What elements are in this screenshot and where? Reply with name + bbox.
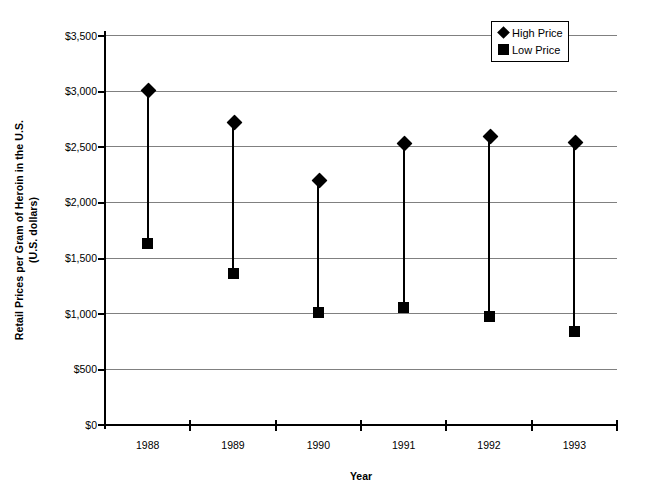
gridline-2000 bbox=[105, 202, 617, 203]
price-range-stem-1992 bbox=[488, 135, 490, 317]
x-axis-tick-1988 bbox=[189, 420, 191, 431]
y-tick-label-1000: $1,000 bbox=[45, 308, 97, 320]
x-axis-tick-1992 bbox=[531, 420, 533, 431]
low-price-marker-1989[interactable] bbox=[228, 268, 239, 279]
high-price-marker-1988[interactable] bbox=[141, 83, 157, 99]
high-price-marker-1992[interactable] bbox=[482, 128, 498, 144]
plot-area: 198819891990199119921993 bbox=[105, 35, 617, 425]
low-price-marker-1990[interactable] bbox=[313, 307, 324, 318]
y-tick-label-0: $0 bbox=[45, 419, 97, 431]
x-axis-tick-1989 bbox=[275, 420, 277, 431]
low-price-marker-1991[interactable] bbox=[398, 302, 409, 313]
y-axis-tick-500 bbox=[98, 369, 106, 371]
x-tick-label-1993: 1993 bbox=[539, 439, 609, 451]
gridline-2500 bbox=[105, 146, 617, 147]
x-axis-tick-1990 bbox=[360, 420, 362, 431]
y-tick-label-1500: $1,500 bbox=[45, 252, 97, 264]
y-axis-tick-0 bbox=[98, 424, 106, 426]
diamond-marker-icon bbox=[496, 28, 510, 37]
x-tick-label-1992: 1992 bbox=[454, 439, 524, 451]
x-axis-tick-1993 bbox=[616, 420, 618, 431]
y-axis-title-line2: (U.S. dollars) bbox=[26, 120, 40, 340]
gridline-1000 bbox=[105, 313, 617, 314]
price-range-stem-1990 bbox=[317, 179, 319, 312]
y-axis-tick-2000 bbox=[98, 202, 106, 204]
legend-label-low-price: Low Price bbox=[512, 44, 560, 56]
y-tick-label-2500: $2,500 bbox=[45, 141, 97, 153]
heroin-price-chart: Retail Prices per Gram of Heroin in the … bbox=[0, 0, 648, 500]
y-axis-tick-3000 bbox=[98, 91, 106, 93]
high-price-marker-1993[interactable] bbox=[568, 135, 584, 151]
y-axis-tick-2500 bbox=[98, 146, 106, 148]
square-marker-icon bbox=[496, 44, 510, 55]
y-axis-title-line1: Retail Prices per Gram of Heroin in the … bbox=[13, 120, 25, 340]
x-axis-title: Year bbox=[105, 470, 617, 482]
y-axis-tick-3500 bbox=[98, 35, 106, 37]
price-range-stem-1988 bbox=[147, 89, 149, 243]
legend-entry-low-price: Low Price bbox=[496, 41, 563, 58]
low-price-marker-1988[interactable] bbox=[142, 238, 153, 249]
price-range-stem-1993 bbox=[573, 142, 575, 332]
x-tick-label-1991: 1991 bbox=[369, 439, 439, 451]
y-axis-tick-1500 bbox=[98, 258, 106, 260]
price-range-stem-1991 bbox=[403, 143, 405, 307]
gridline-3000 bbox=[105, 91, 617, 92]
x-tick-label-1990: 1990 bbox=[283, 439, 353, 451]
low-price-marker-1992[interactable] bbox=[484, 311, 495, 322]
y-tick-label-3000: $3,000 bbox=[45, 85, 97, 97]
gridline-1500 bbox=[105, 258, 617, 259]
price-range-stem-1989 bbox=[232, 122, 234, 274]
legend-entry-high-price: High Price bbox=[496, 24, 563, 41]
x-tick-label-1989: 1989 bbox=[198, 439, 268, 451]
high-price-marker-1990[interactable] bbox=[312, 173, 328, 189]
chart-legend: High Price Low Price bbox=[491, 21, 569, 62]
x-axis-tick-1991 bbox=[445, 420, 447, 431]
y-tick-label-500: $500 bbox=[45, 363, 97, 375]
low-price-marker-1993[interactable] bbox=[569, 326, 580, 337]
y-tick-label-2000: $2,000 bbox=[45, 196, 97, 208]
high-price-marker-1991[interactable] bbox=[397, 136, 413, 152]
x-tick-label-1988: 1988 bbox=[113, 439, 183, 451]
gridline-500 bbox=[105, 369, 617, 370]
high-price-marker-1989[interactable] bbox=[226, 115, 242, 131]
y-tick-label-3500: $3,500 bbox=[45, 30, 97, 42]
y-axis-tick-1000 bbox=[98, 313, 106, 315]
legend-label-high-price: High Price bbox=[512, 27, 563, 39]
